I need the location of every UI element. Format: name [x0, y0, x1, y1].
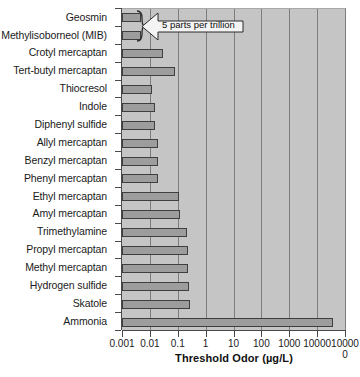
- bar: [122, 174, 158, 183]
- y-axis-tick: [115, 330, 121, 331]
- bar-row: [122, 98, 345, 116]
- x-axis-tick: [234, 331, 235, 337]
- bar: [122, 246, 188, 255]
- bar-row: [122, 295, 345, 313]
- y-axis-tick: [115, 62, 121, 63]
- y-axis-ticks: [115, 8, 121, 330]
- y-axis-tick: [115, 80, 121, 81]
- bar: [122, 121, 155, 130]
- category-label: Indole: [0, 97, 114, 115]
- category-label: Amyl mercaptan: [0, 205, 114, 223]
- category-label: Geosmin: [0, 8, 114, 26]
- category-label: Ammonia: [0, 312, 114, 330]
- x-axis-tick: [150, 331, 151, 337]
- category-label: Hydrogen sulfide: [0, 276, 114, 294]
- category-label: Ethyl mercaptan: [0, 187, 114, 205]
- y-axis-tick: [115, 312, 121, 313]
- y-axis-tick: [115, 205, 121, 206]
- bar-row: [122, 277, 345, 295]
- plot-area: [122, 8, 346, 331]
- y-axis-tick: [115, 276, 121, 277]
- y-axis-tick: [115, 151, 121, 152]
- x-axis-tick: [345, 331, 346, 337]
- bar-row: [122, 170, 345, 188]
- bar: [122, 264, 188, 273]
- bar-row: [122, 45, 345, 63]
- bar-row: [122, 63, 345, 81]
- x-axis-tick: [178, 331, 179, 337]
- bar: [122, 139, 158, 148]
- brace-connector: [136, 10, 144, 42]
- y-axis-tick: [115, 97, 121, 98]
- bar-row: [122, 313, 345, 331]
- x-axis-tick: [261, 331, 262, 337]
- gridline: [345, 9, 346, 331]
- y-axis-tick: [115, 8, 121, 9]
- category-label: Diphenyl sulfide: [0, 115, 114, 133]
- y-axis-tick: [115, 241, 121, 242]
- x-axis-tick-label: 0.1: [171, 338, 185, 349]
- y-axis-tick: [115, 26, 121, 27]
- x-axis-tick-label: 1000: [278, 338, 300, 349]
- bar-row: [122, 81, 345, 99]
- bar-row: [122, 152, 345, 170]
- x-axis-tick-label: 1: [203, 338, 209, 349]
- y-axis-tick: [115, 258, 121, 259]
- category-label: Crotyl mercaptan: [0, 44, 114, 62]
- category-label: Tert-butyl mercaptan: [0, 62, 114, 80]
- bar-row: [122, 242, 345, 260]
- y-axis-tick: [115, 187, 121, 188]
- y-axis-tick: [115, 169, 121, 170]
- bar-series: [122, 9, 345, 331]
- bar-row: [122, 188, 345, 206]
- x-axis-title: Threshold Odor (µg/L): [122, 352, 346, 364]
- bar: [122, 49, 163, 58]
- bar: [122, 103, 155, 112]
- bar-row: [122, 116, 345, 134]
- x-axis-tick: [206, 331, 207, 337]
- x-axis-tick: [317, 331, 318, 337]
- bar: [122, 67, 175, 76]
- category-label: Thiocresol: [0, 80, 114, 98]
- y-axis-tick: [115, 133, 121, 134]
- category-label: Phenyl mercaptan: [0, 169, 114, 187]
- bar: [122, 228, 187, 237]
- bar: [122, 157, 158, 166]
- x-axis-ticks: [122, 331, 346, 337]
- category-label: Propyl mercaptan: [0, 241, 114, 259]
- x-axis-tick-label: 10000: [303, 338, 331, 349]
- y-axis-tick: [115, 44, 121, 45]
- bar: [122, 300, 190, 309]
- category-label: Methylisoborneol (MIB): [0, 26, 114, 44]
- bar: [122, 282, 189, 291]
- y-axis-tick: [115, 223, 121, 224]
- bar-row: [122, 206, 345, 224]
- bar-row: [122, 259, 345, 277]
- x-axis-tick-label: 0.01: [140, 338, 159, 349]
- bar-row: [122, 134, 345, 152]
- x-axis-tick: [122, 331, 123, 337]
- bar-row: [122, 27, 345, 45]
- x-axis-tick-label: 0.001: [109, 338, 134, 349]
- bar: [122, 192, 179, 201]
- bar: [122, 318, 333, 327]
- x-axis-tick: [289, 331, 290, 337]
- x-axis-tick-label: 100: [253, 338, 270, 349]
- y-axis-tick: [115, 294, 121, 295]
- bar-row: [122, 224, 345, 242]
- brace-icon: [136, 10, 144, 42]
- category-axis-labels: GeosminMethylisoborneol (MIB)Crotyl merc…: [0, 8, 114, 330]
- bar-row: [122, 9, 345, 27]
- category-label: Benzyl mercaptan: [0, 151, 114, 169]
- y-axis-tick: [115, 115, 121, 116]
- category-label: Skatole: [0, 294, 114, 312]
- x-axis-tick-label: 10: [228, 338, 239, 349]
- category-label: Allyl mercaptan: [0, 133, 114, 151]
- category-label: Methyl mercaptan: [0, 258, 114, 276]
- category-label: Trimethylamine: [0, 223, 114, 241]
- bar: [122, 210, 180, 219]
- bar: [122, 85, 152, 94]
